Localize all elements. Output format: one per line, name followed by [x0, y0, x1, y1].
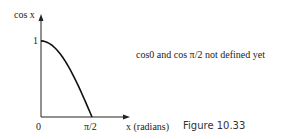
figure-caption: Figure 10.33: [183, 120, 245, 131]
x-axis-label: x (radians): [126, 121, 169, 132]
x-tick-label-0: 0: [36, 121, 41, 132]
x-axis-arrow-icon: [123, 115, 130, 120]
annotation-note: cos0 and cos π/2 not defined yet: [136, 49, 265, 60]
cos-plot: [0, 0, 284, 139]
y-axis-label: cos x: [14, 9, 35, 20]
cos-curve: [41, 41, 92, 117]
y-tick-label-1: 1: [33, 35, 38, 46]
x-tick-label-pi-over-2: π/2: [84, 121, 97, 132]
y-axis-arrow-icon: [39, 14, 44, 21]
